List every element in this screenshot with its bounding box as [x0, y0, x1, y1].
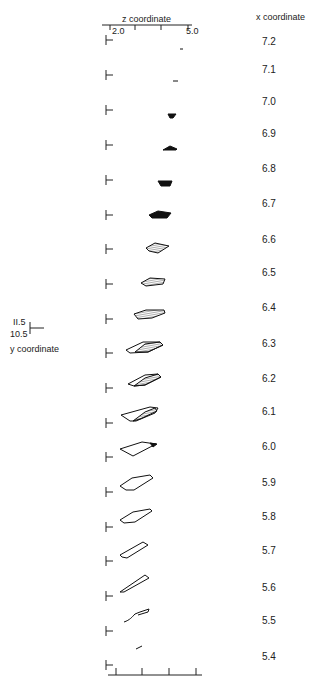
section-reference-marker [106, 244, 113, 254]
section-reference-marker [106, 556, 113, 566]
section-reference-marker [106, 175, 113, 185]
section-reference-marker [106, 105, 113, 115]
section-reference-marker [106, 626, 113, 636]
section-reference-marker [106, 452, 113, 462]
section-reference-marker [106, 660, 113, 670]
section-reference-marker [106, 70, 113, 80]
section-reference-marker [106, 487, 113, 497]
section-reference-marker [106, 418, 113, 428]
section-reference-marker [106, 279, 113, 289]
section-reference-marker [106, 210, 113, 220]
section-diagram [0, 0, 314, 685]
section-reference-marker [106, 35, 113, 45]
section-reference-marker [106, 314, 113, 324]
section-reference-marker [106, 348, 113, 358]
section-reference-marker [106, 140, 113, 150]
section-reference-marker [106, 591, 113, 601]
section-reference-marker [106, 522, 113, 532]
section-reference-marker [106, 383, 113, 393]
